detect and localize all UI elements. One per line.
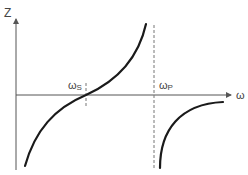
wp-label: ωP	[159, 79, 173, 92]
x-axis-label: ω	[236, 89, 245, 101]
ws-label: ωS	[68, 79, 82, 92]
y-axis-label: Z	[4, 6, 11, 20]
curve-branch-above-wp	[160, 102, 223, 168]
impedance-frequency-diagram: Z ω ωS ωP	[0, 0, 248, 175]
